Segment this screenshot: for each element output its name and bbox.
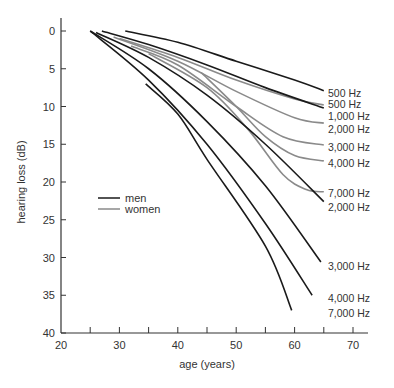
series-line-men-1-000-hz [102, 31, 324, 108]
series-end-label: 7,000 Hz [328, 187, 370, 199]
series-line-women-7-000-hz [149, 54, 324, 192]
y-tick-label: 10 [43, 101, 55, 113]
legend: men women [98, 192, 160, 215]
y-tick-label: 0 [49, 25, 55, 37]
series-line-men-7-000-hz [146, 84, 292, 311]
series-end-label: 1,000 Hz [328, 110, 370, 122]
series-line-men-2-000-hz [96, 33, 324, 202]
series-lines [90, 31, 324, 310]
x-tick-label: 40 [172, 339, 184, 351]
hearing-loss-chart: 0510152025303540203040506070 500 Hz500 H… [0, 0, 394, 388]
y-tick-label: 25 [43, 214, 55, 226]
y-tick-label: 20 [43, 176, 55, 188]
series-end-label: 7,000 Hz [328, 307, 370, 319]
y-tick-label: 15 [43, 138, 55, 150]
x-tick-label: 30 [113, 339, 125, 351]
series-end-label: 3,000 Hz [328, 141, 370, 153]
y-tick-label: 35 [43, 289, 55, 301]
y-axis-label: hearing loss (dB) [15, 140, 27, 223]
series-end-label: 4,000 Hz [328, 157, 370, 169]
x-tick-label: 60 [288, 339, 300, 351]
series-end-label: 3,000 Hz [328, 260, 370, 272]
legend-label-women: women [124, 203, 160, 215]
series-line-men-4-000-hz [90, 31, 312, 295]
y-tick-label: 5 [49, 63, 55, 75]
series-end-label: 2,000 Hz [328, 201, 370, 213]
series-end-label: 4,000 Hz [328, 292, 370, 304]
y-tick-label: 30 [43, 252, 55, 264]
series-end-label: 500 Hz [328, 98, 361, 110]
series-line-men-3-000-hz [90, 31, 321, 262]
y-tick-label: 40 [43, 327, 55, 339]
x-axis-label: age (years) [179, 358, 235, 370]
x-tick-label: 70 [347, 339, 359, 351]
x-tick-label: 20 [55, 339, 67, 351]
series-end-label: 2,000 Hz [328, 123, 370, 135]
series-labels: 500 Hz500 Hz1,000 Hz2,000 Hz3,000 Hz4,00… [328, 87, 370, 319]
x-tick-label: 50 [230, 339, 242, 351]
